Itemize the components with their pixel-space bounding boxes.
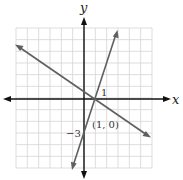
x-axis-left-arrow-icon <box>3 96 11 102</box>
shallow-line <box>15 45 151 138</box>
y-axis-up-arrow-icon <box>81 17 87 25</box>
y-axis-label: y <box>79 0 88 15</box>
coordinate-plane: y x 1 (1, 0) −3 <box>0 0 183 180</box>
point-label-1-0: (1, 0) <box>92 119 119 130</box>
y-intercept-label-minus-3: −3 <box>66 128 81 139</box>
x-axis-right-arrow-icon <box>163 96 171 102</box>
x-axis-label: x <box>172 92 180 107</box>
y-intercept-label-1: 1 <box>101 87 107 98</box>
y-axis-down-arrow-icon <box>81 171 87 179</box>
x-axis <box>3 96 171 102</box>
steep-line-bottom-arrow-icon <box>71 162 77 170</box>
